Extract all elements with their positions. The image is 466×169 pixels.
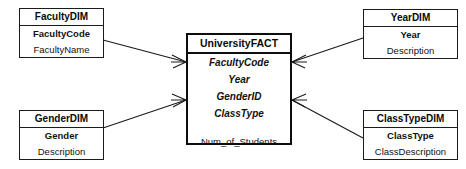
- entity-facultydim-body: FacultyCode FacultyName: [20, 26, 103, 58]
- star-schema-diagram: FacultyDIM FacultyCode FacultyName Gende…: [0, 0, 466, 169]
- entity-facultydim-title: FacultyDIM: [20, 9, 103, 26]
- entity-yeardim[interactable]: YearDIM Year Description: [363, 9, 458, 59]
- entity-classtypedim-attribute: ClassDescription: [364, 144, 457, 160]
- relationship-genderdim-universityfact: [103, 94, 186, 128]
- fact-measure-separator: [188, 122, 290, 134]
- entity-facultydim[interactable]: FacultyDIM FacultyCode FacultyName: [19, 8, 104, 58]
- entity-classtypedim-title: ClassTypeDIM: [364, 111, 457, 128]
- entity-genderdim-body: Gender Description: [20, 128, 103, 160]
- entity-universityfact[interactable]: UniversityFACT FacultyCode Year GenderID…: [186, 33, 292, 145]
- relationship-classtypedim-universityfact: [292, 94, 363, 138]
- entity-universityfact-body: FacultyCode Year GenderID ClassType Num_…: [188, 54, 290, 150]
- entity-genderdim-title: GenderDIM: [20, 111, 103, 128]
- entity-universityfact-title: UniversityFACT: [188, 35, 290, 54]
- entity-universityfact-key-genderid: GenderID: [188, 88, 290, 105]
- entity-classtypedim[interactable]: ClassTypeDIM ClassType ClassDescription: [363, 110, 458, 160]
- entity-yeardim-title: YearDIM: [364, 10, 457, 27]
- entity-universityfact-key-classtype: ClassType: [188, 105, 290, 122]
- entity-classtypedim-key: ClassType: [364, 128, 457, 144]
- relationship-yeardim-universityfact: [292, 38, 363, 68]
- entity-classtypedim-body: ClassType ClassDescription: [364, 128, 457, 160]
- entity-genderdim[interactable]: GenderDIM Gender Description: [19, 110, 104, 160]
- entity-yeardim-key: Year: [364, 27, 457, 43]
- relationship-facultydim-universityfact: [103, 40, 186, 68]
- entity-facultydim-key: FacultyCode: [20, 26, 103, 42]
- entity-universityfact-key-year: Year: [188, 71, 290, 88]
- entity-universityfact-key-facultycode: FacultyCode: [188, 54, 290, 71]
- entity-genderdim-attribute: Description: [20, 144, 103, 160]
- entity-yeardim-attribute: Description: [364, 43, 457, 59]
- entity-genderdim-key: Gender: [20, 128, 103, 144]
- entity-yeardim-body: Year Description: [364, 27, 457, 59]
- entity-universityfact-measure-num-of-students: Num_of_Students: [188, 134, 290, 150]
- entity-facultydim-attribute: FacultyName: [20, 42, 103, 58]
